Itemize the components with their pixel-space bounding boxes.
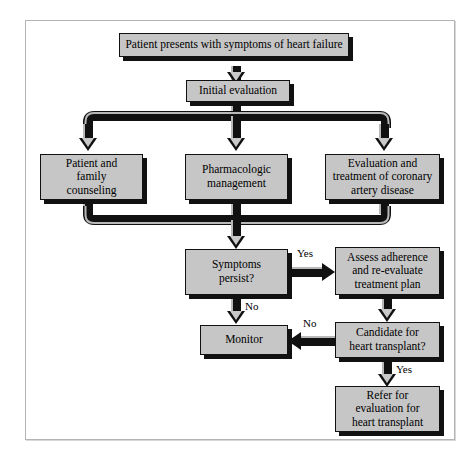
node-counseling-line-2: counseling — [67, 184, 117, 198]
edge-persist-to-assess-arrow — [322, 263, 335, 281]
flowchart-canvas: Patient presents with symptoms of heart … — [0, 0, 472, 459]
node-refer-line-1: evaluation for — [355, 402, 419, 416]
edge-candidate-to-monitor-line — [300, 336, 336, 346]
edge-merge-to-persist-arrow — [227, 236, 245, 249]
node-cad-line-0: Evaluation and — [348, 157, 417, 171]
node-candidate-line-0: Candidate for — [356, 326, 419, 340]
label-candidate-yes: Yes — [396, 363, 412, 375]
edge-persist-to-monitor-arrow — [227, 311, 245, 324]
edge-initial-to-cad-arrow — [375, 138, 393, 151]
node-pharm-line-1: management — [207, 177, 266, 191]
node-candidate-line-1: heart transplant? — [349, 340, 425, 354]
label-candidate-no: No — [303, 317, 316, 329]
node-candidate-heart-transplant[interactable]: Candidate for heart transplant? — [335, 322, 440, 358]
node-cad-line-2: artery disease — [351, 184, 414, 198]
edge-initial-to-pharm-arrow — [227, 138, 245, 151]
node-counseling-line-1: family — [76, 170, 106, 184]
edge-initial-to-counseling-arrow — [79, 138, 97, 151]
node-initial-evaluation[interactable]: Initial evaluation — [186, 80, 290, 102]
label-persist-no: No — [245, 300, 258, 312]
label-persist-yes: Yes — [297, 247, 313, 259]
node-assess-line-1: and re-evaluate — [352, 264, 423, 278]
node-persist-line-1: persist? — [219, 272, 254, 286]
node-refer-line-0: Refer for — [367, 389, 409, 403]
node-assess-adherence[interactable]: Assess adherence and re-evaluate treatme… — [335, 247, 440, 295]
node-persist-line-0: Symptoms — [212, 258, 261, 272]
node-refer-line-2: heart transplant — [352, 416, 423, 430]
node-assess-line-2: treatment plan — [354, 278, 420, 292]
node-monitor-line-0: Monitor — [225, 333, 263, 347]
node-refer-for-evaluation[interactable]: Refer for evaluation for heart transplan… — [335, 386, 440, 432]
node-pharm-line-0: Pharmacologic — [202, 163, 271, 177]
node-pharmacologic-management[interactable]: Pharmacologic management — [185, 154, 288, 200]
node-initial-line-0: Initial evaluation — [199, 84, 277, 98]
node-symptoms-persist[interactable]: Symptoms persist? — [185, 249, 288, 295]
node-cad-line-1: treatment of coronary — [333, 170, 433, 184]
node-monitor[interactable]: Monitor — [200, 325, 288, 355]
node-evaluation-treatment-cad[interactable]: Evaluation and treatment of coronary art… — [325, 154, 440, 200]
node-start-line-0: Patient presents with symptoms of heart … — [125, 38, 342, 52]
node-patient-family-counseling[interactable]: Patient and family counseling — [40, 154, 143, 200]
node-assess-line-0: Assess adherence — [347, 251, 428, 265]
node-start[interactable]: Patient presents with symptoms of heart … — [119, 33, 349, 57]
node-counseling-line-0: Patient and — [66, 157, 117, 171]
edge-candidate-to-monitor-arrow — [288, 332, 301, 350]
edge-assess-to-candidate-arrow — [378, 309, 396, 322]
